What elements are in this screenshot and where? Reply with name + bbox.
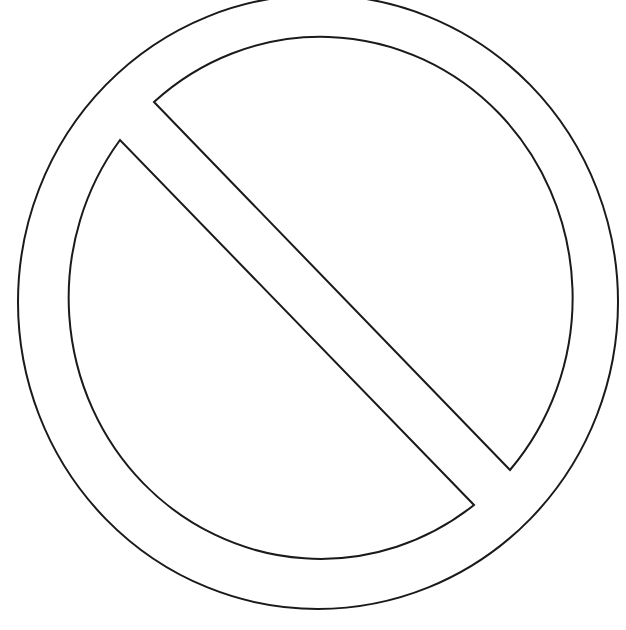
inner-lower-left-region [69,140,474,559]
outer-ring [18,0,618,609]
inner-upper-right-region [154,37,573,470]
no-symbol-icon [0,0,626,630]
prohibition-sign [0,0,626,630]
